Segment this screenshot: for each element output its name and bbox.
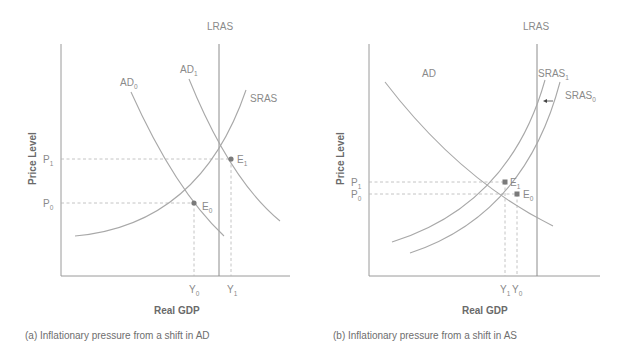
p0-tick: P0 [43, 198, 54, 211]
y-axis-label: Price Level [27, 132, 38, 185]
arrow-head-icon [543, 99, 547, 103]
panel-a: LRAS AD0 AD1 SRAS E0 E1 P1 P0 Y0 Y1 Real… [27, 21, 290, 316]
e1-point [228, 156, 233, 161]
lras-label: LRAS [207, 21, 233, 32]
y0-tick: Y0 [189, 284, 200, 297]
y-axis-label: Price Level [335, 132, 346, 185]
caption-b: (b) Inflationary pressure from a shift i… [333, 330, 517, 341]
p1-tick: P1 [43, 154, 54, 167]
ad-curve [385, 82, 553, 226]
e1-label: E1 [237, 154, 248, 167]
ad0-label: AD0 [120, 77, 138, 90]
y1-tick: Y1 [500, 284, 511, 297]
sras0-label: SRAS0 [565, 90, 596, 103]
ad1-label: AD1 [180, 64, 198, 77]
caption-a: (a) Inflationary pressure from a shift i… [25, 330, 210, 341]
p0-tick: P0 [351, 189, 362, 202]
panel-b: LRAS AD SRAS1 SRAS0 E1 E0 P1 P0 Y1 Y0 Re… [335, 21, 600, 316]
e0-point [515, 192, 520, 197]
y1-tick: Y1 [227, 284, 238, 297]
e0-point [191, 200, 196, 205]
ad0-curve [131, 92, 224, 236]
e1-label: E1 [510, 177, 521, 190]
e0-label: E0 [202, 201, 213, 214]
y0-tick: Y0 [512, 284, 523, 297]
e1-point [503, 180, 508, 185]
diagram-canvas: LRAS AD0 AD1 SRAS E0 E1 P1 P0 Y0 Y1 Real… [0, 0, 618, 345]
x-axis-label: Real GDP [462, 305, 508, 316]
x-axis-label: Real GDP [154, 305, 200, 316]
sras1-curve [392, 80, 545, 242]
sras-label: SRAS [250, 93, 278, 104]
ad-label: AD [422, 68, 436, 79]
lras-label: LRAS [523, 21, 549, 32]
sras-curve [75, 90, 246, 236]
e0-label: E0 [523, 189, 534, 202]
sras1-label: SRAS1 [538, 68, 569, 81]
